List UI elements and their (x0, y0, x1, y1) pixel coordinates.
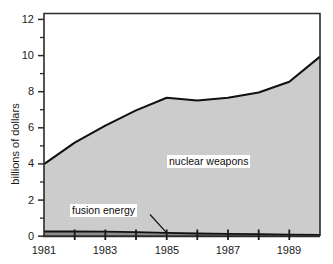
y-tick-label-8: 8 (14, 86, 34, 97)
y-axis-major-ticks (38, 19, 44, 236)
y-tick-label-2: 2 (14, 195, 34, 206)
series-annotation-fusion-energy: fusion energy (70, 204, 137, 217)
chart-figure: billions of dollars 12 10 8 6 4 2 0 1981… (0, 0, 333, 264)
x-tick-label-1989: 1989 (269, 245, 309, 256)
y-tick-label-10: 10 (14, 50, 34, 61)
series-annotation-nuclear-weapons: nuclear weapons (167, 155, 250, 168)
y-tick-label-12: 12 (14, 14, 34, 25)
y-tick-label-4: 4 (14, 158, 34, 169)
x-tick-label-1981: 1981 (24, 245, 64, 256)
x-tick-label-1983: 1983 (85, 245, 125, 256)
y-tick-label-6: 6 (14, 122, 34, 133)
area-chart-canvas (0, 0, 333, 264)
y-tick-label-0: 0 (14, 231, 34, 242)
x-tick-label-1987: 1987 (208, 245, 248, 256)
x-tick-label-1985: 1985 (147, 245, 187, 256)
